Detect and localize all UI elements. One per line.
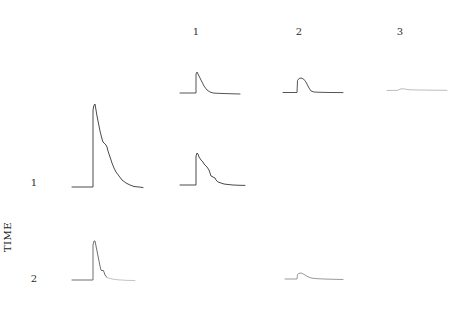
trace-figure: 1 2 3 1 2 TIME [0,0,474,319]
trace-top-col2 [283,78,343,93]
trace-row1-reference [72,104,143,188]
trace-row2-reference-tail [107,278,135,281]
trace-top-col3 [387,89,447,91]
column-label-2: 2 [293,27,305,37]
column-label-3: 3 [394,27,406,37]
row-label-1: 1 [28,178,40,188]
trace-row2-reference [72,241,107,280]
trace-row1-col1 [180,153,245,185]
time-axis-label: TIME [2,217,14,257]
row-label-2: 2 [28,274,40,284]
column-label-1: 1 [190,27,202,37]
trace-top-col1 [180,72,240,94]
trace-row2-col2 [285,273,343,280]
traces-canvas [0,0,474,319]
